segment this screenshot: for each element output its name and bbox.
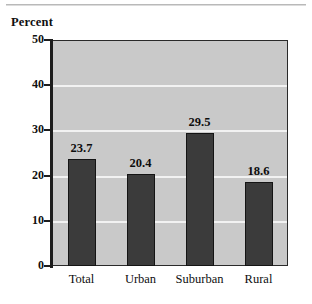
y-axis-tick-label: 50	[32, 32, 44, 47]
top-divider-rule-shadow	[6, 5, 306, 6]
y-axis-tick-label: 30	[32, 122, 44, 137]
bar	[245, 182, 273, 266]
bar-value-label: 29.5	[170, 115, 230, 130]
bar-value-label: 23.7	[52, 141, 112, 156]
y-axis-tick	[44, 84, 51, 86]
y-axis-tick	[44, 175, 51, 177]
gridline	[53, 130, 287, 132]
x-axis-category-label: Rural	[219, 272, 299, 287]
bar-chart-figure: Percent 01020304050 23.720.429.518.6 Tot…	[0, 0, 312, 304]
y-axis-tick-label: 0	[38, 258, 44, 273]
gridline	[53, 85, 287, 87]
bar-value-label: 18.6	[229, 164, 289, 179]
y-axis-tick	[44, 220, 51, 222]
bar	[68, 159, 96, 266]
y-axis-tick-label: 40	[32, 77, 44, 92]
y-axis-tick-label: 10	[32, 213, 44, 228]
y-axis-tick	[44, 129, 51, 131]
bar	[186, 133, 214, 266]
y-axis-tick-label: 20	[32, 168, 44, 183]
y-axis-tick	[44, 265, 51, 267]
bar	[127, 174, 155, 266]
y-axis-title: Percent	[11, 15, 53, 30]
bar-value-label: 20.4	[111, 156, 171, 171]
y-axis-tick	[44, 39, 51, 41]
